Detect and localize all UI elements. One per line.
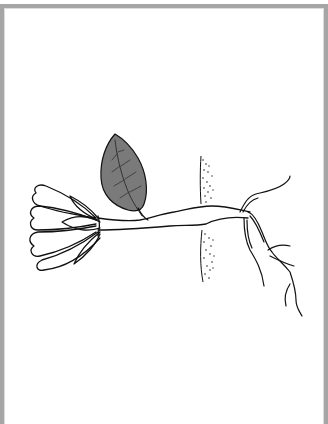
flower-icon [30,185,100,270]
plant-illustration [0,0,328,424]
roots [240,176,302,316]
stippled-barrier [200,156,214,282]
stem [98,206,250,230]
leaf-icon [101,134,148,220]
